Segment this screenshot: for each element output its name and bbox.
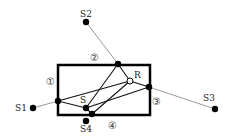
reflection-point-p1 (55, 98, 61, 104)
receiver-point-r (127, 78, 133, 84)
reflection-point-p4 (89, 111, 95, 117)
source-line-s1 (33, 101, 58, 108)
reflection-point-p2 (115, 61, 121, 67)
point-label-r: R (134, 70, 141, 80)
image-source-reflection-diagram: SRS1S2S3S4 ①②③④ (0, 0, 227, 139)
point-label-s1: S1 (15, 103, 27, 113)
source-point-s (83, 105, 89, 111)
source-point-s2 (83, 19, 89, 25)
point-label-s: S (80, 95, 86, 105)
reflection-point-p3 (146, 84, 152, 90)
wall-2-label: ② (90, 52, 99, 63)
wall-1-label: ① (46, 76, 55, 87)
source-point-s1 (30, 105, 36, 111)
point-label-s3: S3 (203, 93, 215, 103)
wall-3-label: ③ (152, 96, 161, 107)
wall-4-label: ④ (108, 120, 117, 131)
source-point-s3 (212, 106, 218, 112)
point-label-s4: S4 (80, 124, 92, 134)
point-label-s2: S2 (80, 9, 92, 19)
